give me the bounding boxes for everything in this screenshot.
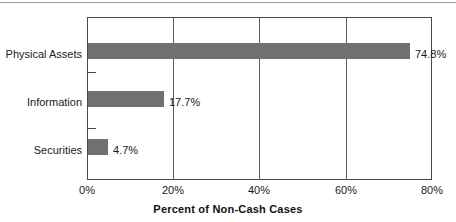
xtick-label-80: 80% — [402, 184, 456, 196]
value-label-physical-assets: 74.8% — [415, 48, 446, 60]
category-tick-1 — [88, 72, 96, 73]
gridline-60 — [346, 17, 347, 180]
x-axis-title: Percent of Non-Cash Cases — [0, 203, 456, 215]
category-tick-2 — [88, 128, 96, 129]
bar-information — [88, 91, 164, 107]
bar-securities — [88, 139, 108, 155]
category-label-information: Information — [27, 96, 82, 108]
xtick-label-60: 60% — [316, 184, 376, 196]
value-label-information: 17.7% — [169, 96, 200, 108]
category-label-securities: Securities — [34, 144, 82, 156]
xtick-label-40: 40% — [229, 184, 289, 196]
bar-physical-assets — [88, 43, 410, 59]
bar-chart-figure: Physical Assets 74.8% Information 17.7% … — [0, 0, 456, 222]
xtick-label-0: 0% — [57, 184, 117, 196]
top-divider-rule — [0, 2, 456, 3]
gridline-40 — [259, 17, 260, 180]
xtick-label-20: 20% — [143, 184, 203, 196]
value-label-securities: 4.7% — [113, 144, 138, 156]
category-label-physical-assets: Physical Assets — [6, 48, 82, 60]
